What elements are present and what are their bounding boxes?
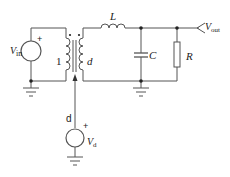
resistor: [174, 42, 180, 67]
transformer: [66, 38, 83, 72]
control-voltage-source: [66, 129, 84, 147]
junction-dot: [139, 26, 143, 30]
polarity-dot: [78, 34, 80, 36]
transformer-primary-label: 1: [56, 55, 62, 67]
junction-dot: [175, 26, 179, 30]
circuit-diagram: + Vin 1 d d + Vd: [0, 0, 230, 177]
vd-label: Vd: [87, 136, 97, 149]
ground-icon: [67, 157, 83, 165]
inductor-label: L: [109, 10, 116, 22]
vout-label: Vout: [205, 21, 220, 34]
capacitor: [134, 53, 148, 57]
polarity-dot: [69, 34, 71, 36]
ground-icon: [133, 88, 149, 96]
wire-secondary-top: [83, 28, 101, 38]
vin-plus-sign: +: [37, 34, 42, 44]
control-line-label: d: [66, 113, 72, 124]
capacitor-label: C: [149, 49, 157, 61]
arrow-up-icon: [73, 74, 78, 81]
input-voltage-source: [21, 41, 41, 61]
junction-dot: [29, 79, 33, 83]
inductor: [101, 24, 125, 28]
vin-label: Vin: [10, 45, 22, 58]
wire-secondary-bottom: [83, 70, 177, 81]
vd-plus-sign: +: [83, 121, 88, 131]
resistor-label: R: [185, 50, 193, 62]
junction-dot: [139, 79, 143, 83]
transformer-secondary-label: d: [87, 55, 93, 67]
ground-icon: [23, 88, 39, 96]
